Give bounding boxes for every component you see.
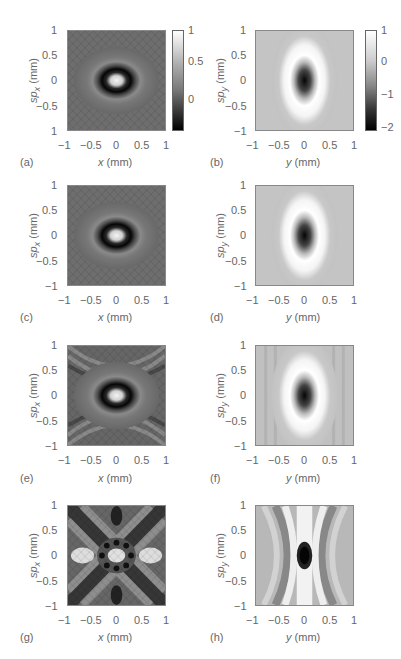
panel-label: (b) [210,156,223,168]
y-tick: 1 [51,180,57,191]
x-tick: −1 [58,455,71,466]
y-tick: 0.5 [231,50,246,61]
x-tick: 0 [113,615,119,626]
x-tick: 0.5 [322,295,337,306]
y-tick: 1 [240,25,246,36]
y-tick: 0 [240,75,246,86]
y-tick: 0 [240,230,246,241]
y-tick: 0.5 [231,365,246,376]
x-tick: 0 [113,295,119,306]
y-axis-label: spx (mm) [27,373,42,418]
x-tick: 0.5 [134,455,149,466]
colorbar-tick: 1 [381,25,387,36]
x-tick: −0.5 [268,295,290,306]
x-tick: 1 [351,615,357,626]
x-tick: −0.5 [268,140,290,151]
x-tick: 1 [351,140,357,151]
x-tick: 0.5 [134,615,149,626]
x-tick: −0.5 [80,455,102,466]
colorbar-tick: 0.5 [188,56,203,67]
x-tick: −0.5 [80,140,102,151]
y-tick: 0 [51,75,57,86]
y-axis-label: spy (mm) [214,373,229,418]
x-axis-label: y (mm) [286,472,320,484]
y-tick: 0.5 [231,205,246,216]
y-tick: 0 [51,230,57,241]
panel-label: (d) [210,311,223,323]
x-tick: −0.5 [80,295,102,306]
x-tick: −0.5 [268,455,290,466]
heatmap-a [67,30,166,131]
panel-label: (c) [20,311,33,323]
x-tick: 1 [163,455,169,466]
x-tick: −1 [246,455,259,466]
x-axis-label: x (mm) [98,472,132,484]
panel-label: (f) [210,472,220,484]
y-tick: −1 [45,601,58,612]
y-tick: 0.5 [42,365,57,376]
y-tick: 1 [51,500,57,511]
colorbar-a [172,30,184,131]
y-tick: −1 [234,281,247,292]
x-tick: −1 [58,295,71,306]
x-tick: 1 [163,615,169,626]
x-tick: 1 [351,295,357,306]
y-tick: −1 [234,126,247,137]
x-tick: 0.5 [322,140,337,151]
x-tick: 1 [163,140,169,151]
y-tick: 0 [240,550,246,561]
x-axis-label: y (mm) [286,631,320,643]
y-tick: 1 [240,180,246,191]
y-tick: 1 [51,25,57,36]
x-tick: −1 [246,615,259,626]
x-tick: −0.5 [268,615,290,626]
x-tick: 0.5 [322,455,337,466]
y-axis-label: spy (mm) [214,533,229,578]
y-axis-label: spx (mm) [27,533,42,578]
y-tick: 0.5 [42,205,57,216]
heatmap-h [255,505,354,606]
colorbar-tick: −2 [381,122,394,133]
y-tick: −1 [45,441,58,452]
y-axis-label: spy (mm) [214,213,229,258]
heatmap-e [67,345,166,446]
y-tick: 1 [51,340,57,351]
y-tick: 0.5 [231,525,246,536]
x-tick: 1 [351,455,357,466]
heatmap-d [255,185,354,286]
y-tick: −1 [234,601,247,612]
panel-label: (a) [20,156,33,168]
y-tick: 1 [51,126,57,137]
y-tick: 1 [240,340,246,351]
x-axis-label: y (mm) [286,156,320,168]
y-tick: 0.5 [42,525,57,536]
x-axis-label: y (mm) [286,311,320,323]
x-tick: 0.5 [322,615,337,626]
x-tick: −1 [58,615,71,626]
y-tick: 0.5 [42,50,57,61]
panel-label: (h) [210,631,223,643]
colorbar-tick: 0 [381,56,387,67]
x-tick: −1 [246,140,259,151]
y-axis-label: spx (mm) [27,213,42,258]
y-axis-label: spy (mm) [214,58,229,103]
colorbar-tick: 0 [188,94,194,105]
x-axis-label: x (mm) [98,311,132,323]
y-tick: 0 [51,390,57,401]
y-tick: −1 [234,441,247,452]
colorbar-tick: −1 [381,89,394,100]
x-tick: −0.5 [80,615,102,626]
x-tick: 0 [301,455,307,466]
x-tick: 0.5 [134,295,149,306]
panel-label: (e) [20,472,33,484]
x-tick: 0 [301,140,307,151]
x-tick: 0 [113,140,119,151]
y-axis-label: spx (mm) [27,58,42,103]
y-tick: −1 [45,281,58,292]
heatmap-g [67,505,166,606]
x-axis-label: x (mm) [98,631,132,643]
x-tick: −1 [58,140,71,151]
x-tick: 0 [113,455,119,466]
y-tick: 1 [240,500,246,511]
panel-label: (g) [20,631,33,643]
